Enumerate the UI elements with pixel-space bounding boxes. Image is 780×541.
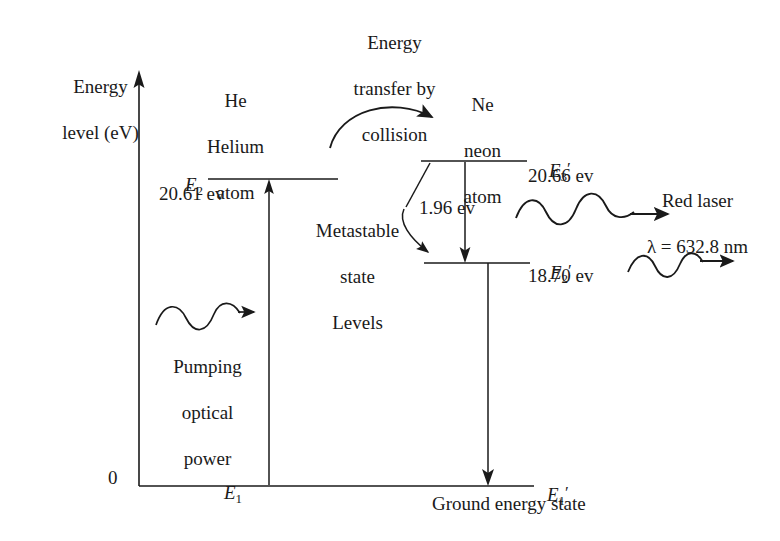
ground-energy-state-label: Ground energy state bbox=[432, 492, 586, 515]
energy-transfer-line3: collision bbox=[362, 124, 427, 145]
red-laser-label: Red laser λ = 632.8 nm bbox=[608, 166, 768, 281]
metastable-state-label: Metastable state Levels bbox=[288, 196, 408, 357]
helium-name: Helium bbox=[207, 136, 264, 157]
neon-e3-energy-label: 20.66 ev bbox=[528, 164, 593, 187]
neon-e2-energy-label: 18.70 ev bbox=[528, 264, 593, 287]
y-axis-label-line1: Energy bbox=[73, 76, 128, 97]
helium-symbol: He bbox=[224, 90, 246, 111]
energy-transfer-line1: Energy bbox=[367, 32, 422, 53]
transition-energy-label: 1.96 ev bbox=[419, 196, 475, 219]
metastable-line3: Levels bbox=[332, 312, 383, 333]
energy-level-diagram: Energy level (eV) 0 He Helium atom E2 20… bbox=[0, 0, 780, 541]
red-laser-wavelength: λ = 632.8 nm bbox=[647, 236, 748, 257]
pumping-line2: optical bbox=[182, 402, 234, 423]
pumping-line1: Pumping bbox=[173, 356, 242, 377]
energy-transfer-line2: transfer by bbox=[354, 78, 436, 99]
metastable-line1: Metastable bbox=[316, 220, 399, 241]
neon-name: neon bbox=[464, 140, 501, 161]
metastable-line2: state bbox=[340, 266, 375, 287]
pumping-line3: power bbox=[184, 448, 231, 469]
pumping-optical-power-label: Pumping optical power bbox=[142, 332, 254, 493]
ground-decay-arrow bbox=[482, 263, 494, 486]
red-laser-line1: Red laser bbox=[662, 190, 733, 211]
y-axis-label-line2: level (eV) bbox=[62, 122, 138, 143]
y-axis-label: Energy level (eV) bbox=[36, 52, 146, 167]
helium-e2-energy-label: 20.61 ev bbox=[159, 182, 224, 205]
pumping-wave-icon bbox=[156, 303, 254, 329]
axis-origin-label: 0 bbox=[108, 466, 118, 489]
neon-symbol: Ne bbox=[471, 94, 493, 115]
